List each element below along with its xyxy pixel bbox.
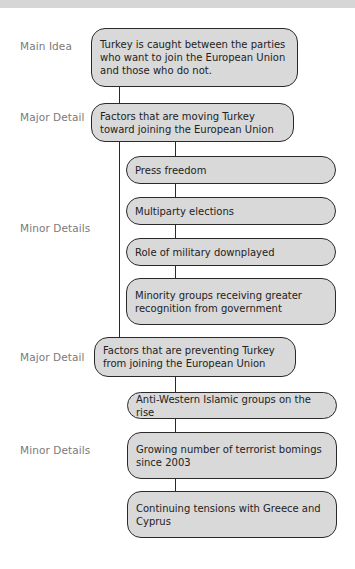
label-minor-details-2: Minor Details [20, 444, 90, 456]
minor-detail-text-4: Minority groups receiving greater recogn… [135, 289, 327, 315]
connector-main-to-major1 [119, 86, 120, 104]
minor-detail-box-2: Multiparty elections [126, 197, 336, 225]
minor-detail-text-6: Growing number of terrorist bomings sinc… [136, 443, 328, 469]
major-detail-text-2: Factors that are preventing Turkey from … [103, 344, 287, 370]
connector-minor6-to-minor7 [175, 478, 176, 492]
connector-major2-to-minor5 [175, 376, 176, 393]
main-idea-text: Turkey is caught between the parties who… [100, 38, 289, 77]
connector-minor2-to-minor3 [175, 224, 176, 239]
label-major-detail-1: Major Detail [20, 111, 85, 123]
connector-minor1-to-minor2 [175, 183, 176, 198]
major-detail-box-2: Factors that are preventing Turkey from … [94, 337, 296, 377]
label-main-idea: Main Idea [20, 40, 72, 52]
major-detail-text-1: Factors that are moving Turkey toward jo… [100, 110, 285, 136]
minor-detail-box-3: Role of military downplayed [126, 238, 336, 266]
label-minor-details-1: Minor Details [20, 222, 90, 234]
minor-detail-text-7: Continuing tensions with Greece and Cypr… [136, 502, 328, 528]
connector-minor3-to-minor4 [175, 265, 176, 279]
connector-minor5-to-minor6 [175, 418, 176, 433]
connector-major1-to-major2 [119, 141, 120, 345]
minor-detail-box-7: Continuing tensions with Greece and Cypr… [127, 491, 337, 538]
minor-detail-text-2: Multiparty elections [135, 205, 234, 218]
minor-detail-box-6: Growing number of terrorist bomings sinc… [127, 432, 337, 479]
minor-detail-text-1: Press freedom [135, 164, 206, 177]
label-major-detail-2: Major Detail [20, 351, 85, 363]
minor-detail-box-1: Press freedom [126, 156, 336, 184]
top-band [0, 0, 355, 8]
minor-detail-text-3: Role of military downplayed [135, 246, 275, 259]
minor-detail-box-5: Anti-Western Islamic groups on the rise [127, 392, 337, 419]
main-idea-box: Turkey is caught between the parties who… [91, 28, 298, 87]
minor-detail-text-5: Anti-Western Islamic groups on the rise [136, 393, 328, 419]
connector-major1-to-minor1 [175, 141, 176, 157]
major-detail-box-1: Factors that are moving Turkey toward jo… [91, 103, 294, 142]
minor-detail-box-4: Minority groups receiving greater recogn… [126, 278, 336, 325]
